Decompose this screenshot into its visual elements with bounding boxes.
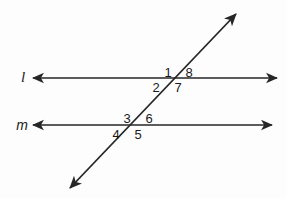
angle-label-6: 6 — [145, 112, 152, 125]
angle-label-1: 1 — [164, 66, 171, 79]
line-label-m: m — [16, 118, 28, 132]
angle-label-5: 5 — [134, 128, 141, 141]
angle-label-7: 7 — [174, 81, 181, 94]
line-transversal — [70, 14, 236, 188]
angle-label-4: 4 — [112, 128, 119, 141]
angle-label-3: 3 — [123, 112, 130, 125]
geometry-figure: l m 1 8 2 7 3 6 4 5 — [0, 0, 287, 199]
figure-canvas — [0, 0, 287, 199]
line-label-l: l — [21, 70, 25, 85]
angle-label-2: 2 — [152, 81, 159, 94]
angle-label-8: 8 — [185, 66, 192, 79]
